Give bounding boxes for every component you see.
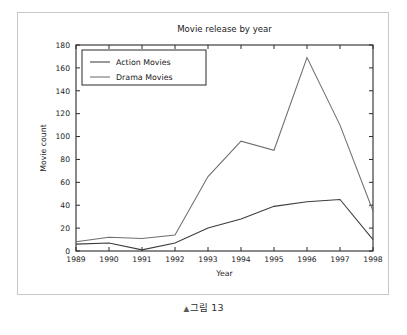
x-tick-label: 1996 [297, 255, 316, 264]
x-tick-label: 1995 [264, 255, 283, 264]
y-axis-title: Movie count [39, 124, 48, 172]
y-tick-label: 60 [60, 178, 70, 187]
figure-caption: ▲그림 13 [0, 300, 407, 314]
figure-frame: Movie release by year0204060801001201401… [17, 12, 389, 295]
x-tick-label: 1993 [198, 255, 217, 264]
x-axis-title: Year [215, 269, 233, 278]
y-tick-label: 160 [56, 64, 71, 73]
legend-label-1: Drama Movies [116, 73, 173, 82]
y-tick-label: 120 [56, 109, 71, 118]
y-tick-label: 180 [56, 41, 71, 50]
legend-label-0: Action Movies [116, 58, 171, 67]
x-tick-label: 1991 [132, 255, 151, 264]
x-tick-label: 1990 [99, 255, 118, 264]
chart-plot-area: Movie release by year0204060801001201401… [18, 13, 388, 294]
series-line-0 [76, 200, 373, 250]
x-tick-label: 1997 [330, 255, 349, 264]
chart-title: Movie release by year [177, 24, 272, 34]
y-tick-label: 80 [60, 155, 70, 164]
y-tick-label: 100 [56, 132, 71, 141]
x-tick-label: 1994 [231, 255, 250, 264]
y-tick-label: 40 [60, 201, 70, 210]
caption-label: 그림 13 [190, 302, 223, 313]
x-tick-label: 1989 [66, 255, 85, 264]
caption-triangle-icon: ▲ [184, 304, 190, 313]
y-tick-label: 20 [60, 224, 70, 233]
x-tick-label: 1998 [363, 255, 382, 264]
movie-release-line-chart: Movie release by year0204060801001201401… [18, 13, 388, 294]
y-tick-label: 140 [56, 87, 71, 96]
x-tick-label: 1992 [165, 255, 184, 264]
